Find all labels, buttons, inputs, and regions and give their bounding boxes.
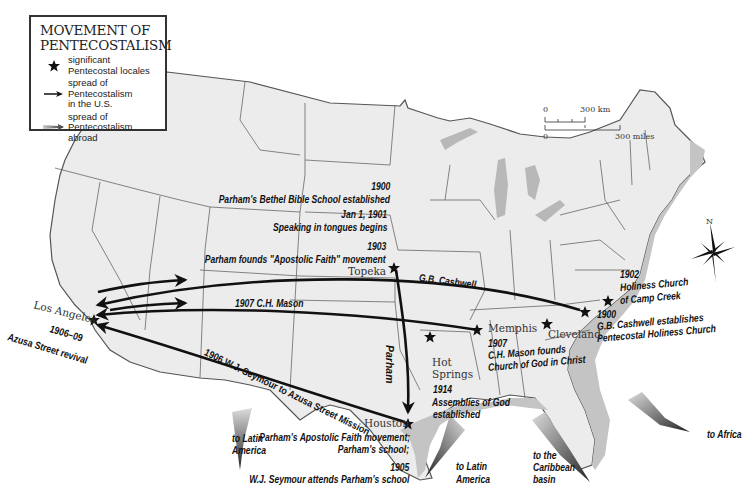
abroad-arrow-africa [628, 392, 690, 432]
city-cleveland: Cleveland [548, 328, 601, 340]
legend-locales-line1: significant [68, 55, 150, 66]
abroad-latin-america-west-2: America [232, 444, 266, 456]
abroad-latin-america-gulf-1: to Latin [456, 460, 487, 472]
houston-line1: Parham's Apostolic Faith movement; [259, 431, 410, 443]
legend-us-line3: in the U.S. [68, 99, 132, 110]
legend-title-line2: PENTECOSTALISM [40, 38, 165, 53]
camp-creek-year: 1902 [620, 268, 639, 280]
scale-mi-label: 300 miles [615, 132, 654, 141]
apostolic-year: 1903 [367, 240, 386, 252]
scale-km-label: 300 km [580, 105, 610, 114]
scale-mi-zero: 0 [543, 132, 548, 141]
abroad-caribbean-3: basin [533, 473, 555, 485]
aog-line2: established [433, 408, 480, 420]
legend-title-line1: MOVEMENT OF [40, 23, 165, 38]
houston-line2: Parham's school; [338, 443, 409, 455]
legend-item-locales: significant Pentecostal locales [40, 55, 165, 76]
apostolic-text: Parham founds "Apostolic Faith" movement [205, 253, 386, 265]
houston-line3: W.J. Seymour attends Parham's school [249, 473, 409, 485]
abroad-africa: to Africa [707, 428, 742, 440]
aog-year: 1914 [433, 383, 452, 395]
bethel-year: 1900 [371, 180, 390, 192]
city-hot-springs-1: Hot [432, 356, 452, 368]
city-houston: Houston [364, 417, 409, 429]
arrow-icon [40, 87, 68, 101]
aog-line1: Assemblies of God [432, 396, 510, 408]
city-memphis: Memphis [488, 322, 537, 334]
star-icon [40, 59, 68, 73]
compass-rose [691, 223, 735, 283]
houston-year: 1905 [390, 461, 409, 473]
bethel-text: Parham's Bethel Bible School established [219, 193, 390, 205]
legend-abroad-line2: Pentecostalism [68, 122, 132, 133]
city-topeka: Topeka [348, 265, 386, 277]
tongues-text: Speaking in tongues begins [273, 221, 387, 233]
legend-item-us-spread: spread of Pentecostalism in the U.S. [40, 78, 165, 110]
map-legend: MOVEMENT OF PENTECOSTALISM significant P… [29, 15, 167, 131]
scale-km-zero: 0 [543, 105, 548, 114]
abroad-caribbean-1: to the [533, 449, 556, 461]
abroad-latin-america-gulf-2: America [456, 473, 490, 485]
city-hot-springs-2: Springs [432, 368, 473, 380]
abroad-caribbean-2: Caribbean [533, 461, 575, 473]
legend-item-abroad: spread of Pentecostalism abroad [40, 112, 165, 144]
route-mason-label: 1907 C.H. Mason [235, 297, 303, 309]
abroad-latin-america-west-1: to Latin [232, 432, 263, 444]
route-parham-label: Parham [384, 345, 396, 384]
legend-abroad-line3: abroad [68, 133, 132, 144]
legend-us-line1: spread of [68, 78, 132, 89]
compass-north-label: N [706, 217, 713, 226]
tongues-year: Jan 1, 1901 [341, 208, 387, 220]
legend-locales-line2: Pentecostal locales [68, 66, 150, 77]
gradient-arrow-icon [40, 120, 68, 134]
